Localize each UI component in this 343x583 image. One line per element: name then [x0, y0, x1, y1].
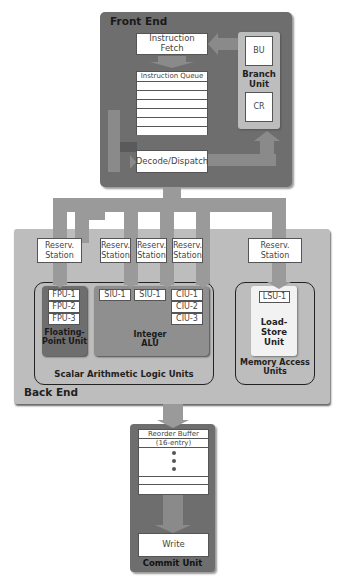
queue-row [137, 99, 207, 108]
ciu-2-label: CIU-2 [176, 302, 198, 311]
arrow-left-icon [208, 33, 218, 55]
reservation-station-siu-1: Reserv. Station [100, 238, 131, 263]
fpu-1: FPU-1 [48, 289, 80, 301]
memory-access-label-line2: Units [235, 367, 315, 376]
reservation-station-lsu: Reserv. Station [248, 238, 302, 263]
arrow-down-icon [267, 282, 291, 289]
integer-alu-label: Integer ALU [120, 330, 180, 348]
instruction-queue: Instruction Queue [136, 71, 208, 135]
arrow-down-icon [123, 282, 139, 288]
arrow-down-icon [155, 525, 191, 533]
rs-line2: Station [173, 251, 201, 260]
rs-line1: Reserv. [173, 241, 202, 250]
cr-box: CR [245, 92, 273, 122]
fpu-2-label: FPU-2 [52, 302, 75, 311]
ciu-3: CIU-3 [171, 313, 203, 325]
arrow-down-icon [52, 282, 68, 288]
instruction-fetch-box: Instruction Fetch [136, 33, 208, 55]
rs-line2: Station [45, 251, 73, 260]
siu-label: SIU-1 [139, 290, 160, 299]
bu-box: BU [245, 36, 273, 66]
ciu-1-label: CIU-1 [176, 290, 198, 299]
back-end-title: Back End [24, 386, 78, 398]
fpu-label-line1: Floating- [40, 328, 89, 337]
lsu-1: LSU-1 [259, 291, 290, 303]
buffer-row [139, 484, 208, 492]
load-store-unit-label: Load- Store Unit [251, 318, 297, 347]
ciu-1: CIU-1 [171, 289, 203, 301]
front-end-title: Front End [110, 15, 167, 27]
floating-point-unit-label: Floating- Point Unit [40, 328, 89, 346]
reorder-buffer: Reorder Buffer (16-entry) [138, 429, 209, 495]
arrow-down-icon [159, 282, 175, 288]
rs-line2: Station [137, 251, 165, 260]
queue-row [137, 117, 207, 126]
arrow-down-icon [157, 420, 189, 428]
rs-line1: Reserv. [101, 241, 130, 250]
write-label: Write [162, 540, 184, 550]
branch-unit-label-line2: Unit [238, 80, 280, 90]
rs-line1: Reserv. [260, 241, 289, 250]
arrow-up-icon [254, 131, 280, 141]
branch-unit-label: Branch Unit [238, 70, 280, 90]
ciu-2: CIU-2 [171, 301, 203, 313]
rs-line1: Reserv. [45, 241, 74, 250]
reservation-station-ciu: Reserv. Station [172, 238, 203, 263]
scalar-alu-label: Scalar Arithmetic Logic Units [34, 370, 214, 380]
buffer-to-write-arrow [163, 495, 183, 525]
branch-feedback-arrow [108, 110, 120, 172]
integer-alu-label-line2: ALU [120, 339, 180, 348]
rs-line2: Station [261, 251, 289, 260]
fpu-3-label: FPU-3 [52, 314, 75, 323]
siu-1-a: SIU-1 [99, 289, 131, 301]
backend-to-commit-arrow [163, 404, 183, 420]
ellipsis-dots-icon [139, 448, 208, 476]
lsu-1-label: LSU-1 [263, 292, 286, 301]
queue-row [137, 90, 207, 99]
reservation-station-fpu: Reserv. Station [37, 238, 82, 263]
bu-label: BU [253, 46, 264, 55]
decode-dispatch-box: Decode/Dispatch [136, 150, 208, 173]
memory-access-units-label: Memory Access Units [235, 358, 315, 376]
lsu-label-line3: Unit [251, 338, 297, 348]
siu-1-b: SIU-1 [134, 289, 166, 301]
siu-label: SIU-1 [104, 290, 125, 299]
branch-to-fetch-arrow [216, 38, 240, 50]
rs-line1: Reserv. [137, 241, 166, 250]
fpu-3: FPU-3 [48, 313, 80, 325]
ciu-3-label: CIU-3 [176, 314, 198, 323]
reorder-buffer-label: Reorder Buffer [139, 430, 208, 439]
integer-alu-label-line1: Integer [120, 330, 180, 339]
queue-row [137, 81, 207, 90]
queue-row [137, 126, 207, 135]
buffer-row [139, 476, 208, 484]
reorder-buffer-size: (16-entry) [139, 439, 208, 448]
arrow-down-icon [195, 282, 211, 288]
decode-dispatch-label: Decode/Dispatch [136, 157, 208, 167]
commit-unit-title: Commit Unit [130, 559, 215, 569]
cr-label: CR [253, 102, 264, 111]
decode-to-branch-arrow-vertical [260, 140, 274, 166]
arrow-right-icon [130, 155, 136, 169]
arrow-down-icon [150, 62, 194, 68]
instruction-queue-label: Instruction Queue [137, 72, 207, 81]
fpu-label-line2: Point Unit [40, 337, 89, 346]
memory-access-label-line1: Memory Access [235, 358, 315, 367]
queue-feedback-arrow [120, 142, 137, 152]
write-box: Write [138, 533, 209, 557]
rs-line2: Station [101, 251, 129, 260]
instruction-fetch-label: Instruction Fetch [137, 34, 207, 54]
fpu-2: FPU-2 [48, 301, 80, 313]
reservation-station-siu-2: Reserv. Station [136, 238, 167, 263]
queue-row [137, 108, 207, 117]
fpu-1-label: FPU-1 [52, 290, 75, 299]
